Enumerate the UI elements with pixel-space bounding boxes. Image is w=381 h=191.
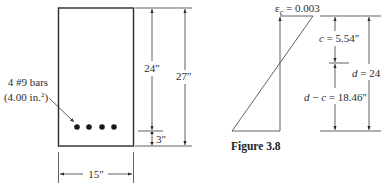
- effective-depth-label: 24″: [144, 62, 160, 74]
- strain-diagram: εc = 0.003 Figure 3.8 c = 5.54″ d − c = …: [231, 2, 381, 153]
- rebar-1: [74, 124, 80, 130]
- rebar-4: [111, 124, 117, 130]
- beam-cross-section: 4 #9 bars (4.00 in.2) 24″ 3″ 27″ 15″: [4, 8, 192, 183]
- neutral-axis-depth-label: c = 5.54″: [319, 32, 359, 44]
- width-label: 15″: [88, 168, 104, 180]
- rebar-3: [99, 124, 105, 130]
- beam-outline: [59, 8, 134, 146]
- total-depth-label: 27″: [176, 70, 192, 82]
- rebar-2: [86, 124, 92, 130]
- rebar-label-line1: 4 #9 bars: [8, 76, 48, 88]
- cover-label: 3″: [156, 133, 166, 145]
- strain-profile-line: [232, 16, 313, 131]
- d-minus-c-label: d − c = 18.46″: [304, 91, 367, 103]
- strain-label: εc = 0.003: [275, 2, 320, 17]
- figure-caption: Figure 3.8: [231, 140, 281, 153]
- rebar-leader-arrow: [49, 98, 74, 122]
- rebar-label-line2: (4.00 in.2): [4, 91, 48, 104]
- figure-canvas: 4 #9 bars (4.00 in.2) 24″ 3″ 27″ 15″ εc …: [0, 0, 381, 191]
- rebar-group: [74, 124, 117, 130]
- effective-depth-d-label: d = 24: [352, 67, 381, 79]
